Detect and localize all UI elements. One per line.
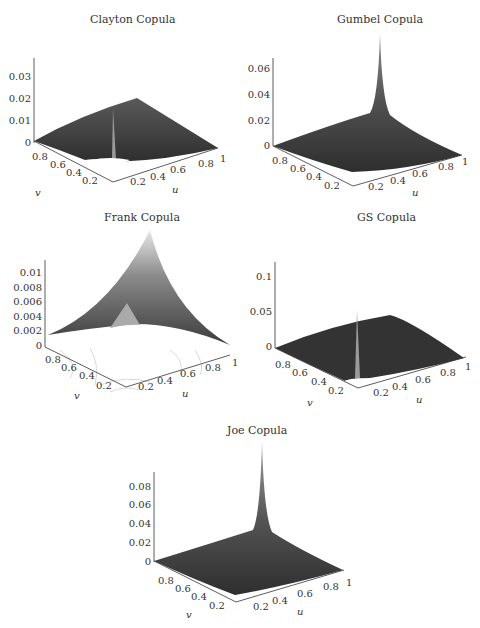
- svg-text:0.6: 0.6: [415, 374, 431, 385]
- svg-text:v: v: [74, 390, 80, 401]
- svg-text:0.8: 0.8: [158, 575, 174, 586]
- svg-text:v: v: [307, 397, 313, 408]
- svg-text:0.002: 0.002: [13, 325, 42, 336]
- svg-text:0.6: 0.6: [297, 588, 313, 599]
- panel-title: Frank Copula: [104, 211, 180, 224]
- svg-text:0.06: 0.06: [248, 63, 270, 74]
- panel-title: Joe Copula: [227, 424, 287, 437]
- svg-text:0.04: 0.04: [129, 518, 151, 529]
- svg-text:u: u: [182, 388, 188, 399]
- svg-text:0.01: 0.01: [20, 267, 42, 278]
- gumbel-panel: Gumbel Copula 0.06 0.04 0.02 0 0.8 0.6 0…: [240, 0, 480, 200]
- svg-text:0.05: 0.05: [250, 306, 272, 317]
- surface-plot: 0.1 0.05 0 0.8 0.6 0.4 0.2 0.2 0.4 0.6 0…: [240, 200, 480, 420]
- svg-text:0.8: 0.8: [198, 158, 214, 169]
- svg-text:1: 1: [232, 357, 238, 368]
- svg-text:0.8: 0.8: [323, 581, 339, 592]
- svg-text:0.4: 0.4: [306, 171, 322, 182]
- svg-text:0.4: 0.4: [150, 171, 166, 182]
- svg-text:0.006: 0.006: [13, 296, 42, 307]
- svg-text:1: 1: [220, 153, 226, 164]
- svg-text:0: 0: [145, 556, 151, 567]
- svg-text:0.4: 0.4: [390, 175, 406, 186]
- svg-text:0.2: 0.2: [328, 385, 344, 396]
- svg-text:0.1: 0.1: [256, 271, 272, 282]
- svg-text:0.4: 0.4: [157, 375, 173, 386]
- surface-plot: 0.08 0.06 0.04 0.02 0 0.8 0.6 0.4 0.2 0.…: [120, 420, 380, 628]
- clayton-panel: Clayton Copula 0.03 0.02 0.01 0 0.8 0.6 …: [0, 0, 240, 200]
- svg-text:0: 0: [266, 341, 272, 352]
- svg-text:0.8: 0.8: [32, 151, 48, 162]
- panel-title: Gumbel Copula: [337, 13, 423, 26]
- svg-text:0.2: 0.2: [368, 181, 384, 192]
- svg-text:0.004: 0.004: [13, 311, 42, 322]
- svg-text:0.02: 0.02: [248, 115, 270, 126]
- surface-plot: 0.03 0.02 0.01 0 0.8 0.6 0.4 0.2 0.2 0.4…: [0, 0, 240, 200]
- svg-text:u: u: [412, 187, 418, 198]
- svg-text:0.6: 0.6: [170, 164, 186, 175]
- gs-panel: GS Copula 0.1 0.05 0 0.8 0.6 0.4 0.2 0.2…: [240, 200, 480, 420]
- joe-panel: Joe Copula 0.08 0.06 0.04 0.02 0 0.8 0.6…: [120, 420, 380, 628]
- svg-text:0.6: 0.6: [50, 159, 66, 170]
- svg-text:0.6: 0.6: [412, 168, 428, 179]
- svg-text:0.6: 0.6: [61, 362, 77, 373]
- svg-text:0.4: 0.4: [66, 167, 82, 178]
- svg-text:u: u: [172, 184, 178, 195]
- svg-text:0.6: 0.6: [292, 367, 308, 378]
- svg-text:u: u: [297, 606, 303, 617]
- svg-text:v: v: [35, 187, 41, 198]
- svg-text:0.02: 0.02: [129, 537, 151, 548]
- svg-text:0.4: 0.4: [191, 591, 207, 602]
- svg-text:v: v: [186, 609, 192, 620]
- svg-text:0.8: 0.8: [275, 359, 291, 370]
- svg-text:0.2: 0.2: [96, 380, 112, 391]
- svg-text:0: 0: [36, 340, 42, 351]
- svg-text:1: 1: [346, 577, 352, 588]
- panel-title: GS Copula: [357, 211, 416, 224]
- svg-text:0.08: 0.08: [129, 481, 151, 492]
- svg-text:0: 0: [25, 137, 31, 148]
- svg-text:0.8: 0.8: [205, 362, 221, 373]
- svg-text:0.04: 0.04: [248, 89, 270, 100]
- svg-text:u: u: [416, 394, 422, 405]
- svg-text:0.8: 0.8: [440, 367, 456, 378]
- svg-text:0.01: 0.01: [9, 115, 31, 126]
- svg-text:1: 1: [462, 156, 468, 167]
- surface-plot: 0.01 0.008 0.006 0.004 0.002 0 0.8 0.6 0…: [0, 200, 240, 420]
- svg-text:0: 0: [264, 140, 270, 151]
- svg-text:0.06: 0.06: [129, 499, 151, 510]
- surface-plot: 0.06 0.04 0.02 0 0.8 0.6 0.4 0.2 0.2 0.4…: [240, 0, 480, 200]
- svg-text:0.2: 0.2: [138, 381, 154, 392]
- svg-text:0.6: 0.6: [175, 583, 191, 594]
- svg-text:0.03: 0.03: [9, 71, 31, 82]
- svg-text:0.4: 0.4: [272, 595, 288, 606]
- svg-text:0.2: 0.2: [324, 180, 340, 191]
- svg-text:0.6: 0.6: [180, 368, 196, 379]
- svg-text:0.2: 0.2: [373, 387, 389, 398]
- svg-text:0.6: 0.6: [290, 163, 306, 174]
- svg-text:0.2: 0.2: [82, 175, 98, 186]
- panel-title: Clayton Copula: [90, 13, 176, 26]
- svg-text:0.2: 0.2: [130, 176, 146, 187]
- frank-panel: Frank Copula 0.01 0.008 0.006 0.004 0.00…: [0, 200, 240, 420]
- svg-text:0.4: 0.4: [311, 376, 327, 387]
- svg-text:0.2: 0.2: [253, 601, 269, 612]
- svg-text:0.02: 0.02: [9, 93, 31, 104]
- svg-text:0.8: 0.8: [45, 354, 61, 365]
- svg-text:1: 1: [465, 361, 471, 372]
- svg-text:0.4: 0.4: [79, 370, 95, 381]
- svg-text:0.2: 0.2: [209, 600, 225, 611]
- svg-text:0.8: 0.8: [438, 161, 454, 172]
- svg-text:0.008: 0.008: [13, 282, 42, 293]
- svg-text:0.8: 0.8: [272, 155, 288, 166]
- svg-text:0.4: 0.4: [392, 381, 408, 392]
